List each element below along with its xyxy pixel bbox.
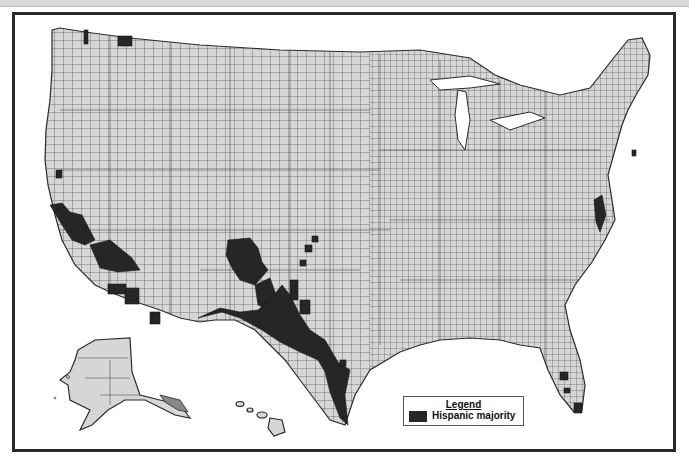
hawaii [236,402,285,437]
legend-swatch-hispanic-majority [409,411,427,422]
legend: Legend Hispanic majority [403,396,524,426]
legend-label-hispanic-majority: Hispanic majority [432,410,515,421]
alaska [54,338,190,430]
us-county-map [0,0,689,462]
legend-title: Legend [404,399,523,410]
